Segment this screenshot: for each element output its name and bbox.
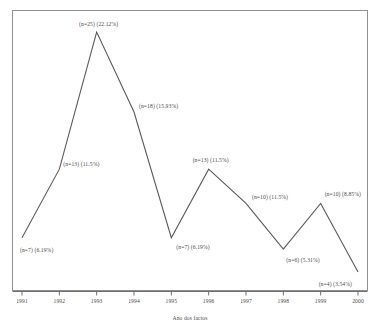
x-tick-label-1991: 1991 (16, 298, 28, 304)
point-label-1994: (n=18) (15.93%) (139, 103, 178, 110)
x-axis-tick-labels: 1991199219931994199519961997199819992000 (16, 298, 364, 304)
point-labels: (n=7) (6.19%)(n=13) (11.5%)(n=25) (22.12… (20, 21, 361, 288)
point-label-1996: (n=13) (11.5%) (193, 157, 229, 164)
x-tick-label-1996: 1996 (203, 298, 215, 304)
point-label-1995: (n=7) (6.19%) (176, 244, 209, 251)
x-axis-title: Ano dos factos (173, 315, 208, 321)
x-axis-ticks (13, 292, 368, 296)
plot-area: (n=7) (6.19%)(n=13) (11.5%)(n=25) (22.12… (0, 0, 380, 325)
x-tick-label-2000: 2000 (352, 298, 364, 304)
x-tick-label-1994: 1994 (128, 298, 140, 304)
x-tick-label-1995: 1995 (166, 298, 178, 304)
x-tick-label-1992: 1992 (54, 298, 66, 304)
point-label-1998: (n=6) (5.31%) (286, 257, 319, 264)
point-label-1999: (n=10) (8.85%) (325, 191, 361, 198)
point-label-1992: (n=13) (11.5%) (63, 161, 99, 168)
x-tick-label-1993: 1993 (91, 298, 103, 304)
point-label-1993: (n=25) (22.12%) (79, 21, 118, 28)
x-tick-label-1998: 1998 (278, 298, 290, 304)
point-label-2000: (n=4) (3.54%) (319, 281, 352, 288)
line-chart: (n=7) (6.19%)(n=13) (11.5%)(n=25) (22.12… (0, 0, 380, 325)
point-label-1991: (n=7) (6.19%) (20, 247, 53, 254)
x-tick-label-1999: 1999 (315, 298, 327, 304)
point-label-1997: (n=10) (11.5%) (252, 194, 288, 201)
x-tick-label-1997: 1997 (240, 298, 252, 304)
series-line-cases (22, 32, 358, 272)
